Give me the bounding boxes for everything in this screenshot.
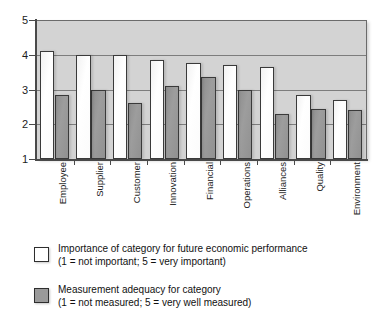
y-axis-tick-3: 3 — [14, 85, 28, 95]
y-axis-tick-4: 4 — [14, 50, 28, 60]
legend-label-adequacy: Measurement adequacy for category (1 = n… — [58, 283, 251, 309]
x-axis-line — [35, 159, 368, 161]
x-axis-label-customer: Customer — [132, 162, 142, 228]
legend-label-adequacy-line1: Measurement adequacy for category — [58, 284, 221, 295]
bar-importance-environment — [333, 100, 348, 159]
x-axis-label-financial: Financial — [205, 162, 215, 228]
y-axis-tick-1: 1 — [14, 154, 28, 164]
x-axis-label-operations: Operations — [242, 162, 252, 228]
x-axis-label-environment: Environment — [352, 162, 362, 228]
legend-item-adequacy: Measurement adequacy for category (1 = n… — [34, 283, 251, 309]
bar-adequacy-supplier — [91, 90, 106, 160]
y-axis-tick-mark-2 — [29, 124, 36, 125]
legend-swatch-importance — [34, 247, 49, 262]
bar-adequacy-quality — [311, 109, 326, 159]
bar-importance-supplier — [76, 55, 91, 159]
bar-adequacy-operations — [238, 90, 253, 160]
bar-adequacy-employee — [55, 95, 70, 159]
x-axis-tick-mark-8 — [330, 161, 331, 165]
bar-importance-financial — [186, 63, 201, 159]
bar-chart-figure: 12345 EmployeeSupplierCustomerInnovation… — [0, 0, 376, 232]
chart-legend: Importance of category for future econom… — [0, 236, 376, 327]
bar-importance-operations — [223, 65, 238, 159]
y-axis-tick-2: 2 — [14, 119, 28, 129]
bar-adequacy-financial — [201, 77, 216, 159]
legend-item-importance: Importance of category for future econom… — [34, 242, 308, 268]
x-axis-tick-mark-6 — [257, 161, 258, 165]
bar-importance-customer — [113, 55, 128, 159]
y-axis-tick-mark-4 — [29, 55, 36, 56]
x-axis-label-innovation: Innovation — [168, 162, 178, 228]
x-axis-label-employee: Employee — [58, 162, 68, 228]
y-axis-tick-mark-5 — [29, 20, 36, 21]
x-axis-label-alliances: Alliances — [278, 162, 288, 228]
legend-label-importance-line1: Importance of category for future econom… — [58, 243, 308, 254]
bar-adequacy-innovation — [165, 86, 180, 159]
x-axis-label-quality: Quality — [315, 162, 325, 228]
x-axis-tick-mark-1 — [74, 161, 75, 165]
x-axis-tick-mark-5 — [220, 161, 221, 165]
x-axis-tick-mark-4 — [184, 161, 185, 165]
legend-label-importance-line2: (1 = not important; 5 = very important) — [58, 255, 308, 268]
legend-label-importance: Importance of category for future econom… — [58, 242, 308, 268]
bars-layer — [37, 20, 367, 159]
y-axis-tick-labels: 12345 — [8, 0, 28, 232]
bar-adequacy-customer — [128, 103, 143, 159]
bar-adequacy-environment — [348, 110, 363, 159]
x-axis-tick-mark-3 — [147, 161, 148, 165]
x-axis-tick-mark-2 — [110, 161, 111, 165]
bar-importance-alliances — [260, 67, 275, 159]
legend-label-adequacy-line2: (1 = not measured; 5 = very well measure… — [58, 296, 251, 309]
y-axis-tick-mark-3 — [29, 90, 36, 91]
y-axis-tick-5: 5 — [14, 15, 28, 25]
y-axis-tick-mark-1 — [29, 159, 36, 160]
x-axis-tick-mark-7 — [294, 161, 295, 165]
x-axis-label-supplier: Supplier — [95, 162, 105, 228]
legend-swatch-adequacy — [34, 288, 49, 303]
bar-importance-innovation — [150, 60, 165, 159]
bar-importance-employee — [40, 51, 55, 159]
bar-importance-quality — [296, 95, 311, 159]
bar-adequacy-alliances — [275, 114, 290, 159]
x-axis-category-labels: EmployeeSupplierCustomerInnovationFinanc… — [37, 164, 367, 230]
